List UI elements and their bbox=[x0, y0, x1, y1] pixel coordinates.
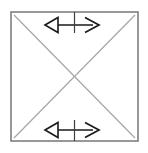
diagram-canvas bbox=[0, 0, 148, 153]
diagram-svg bbox=[0, 0, 148, 153]
bottom-double-arrow bbox=[45, 120, 99, 141]
top-arrow-left-arrowhead bbox=[45, 18, 58, 33]
bottom-arrow-left-arrowhead bbox=[45, 123, 58, 138]
top-double-arrow bbox=[45, 12, 99, 33]
